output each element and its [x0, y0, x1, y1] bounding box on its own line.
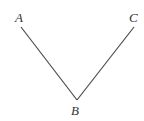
segment-bc	[77, 27, 134, 100]
point-label-b: B	[71, 103, 79, 118]
segment-ab	[21, 27, 77, 100]
point-label-c: C	[129, 10, 138, 25]
point-label-a: A	[14, 10, 23, 25]
angle-diagram: A C B	[0, 0, 144, 121]
